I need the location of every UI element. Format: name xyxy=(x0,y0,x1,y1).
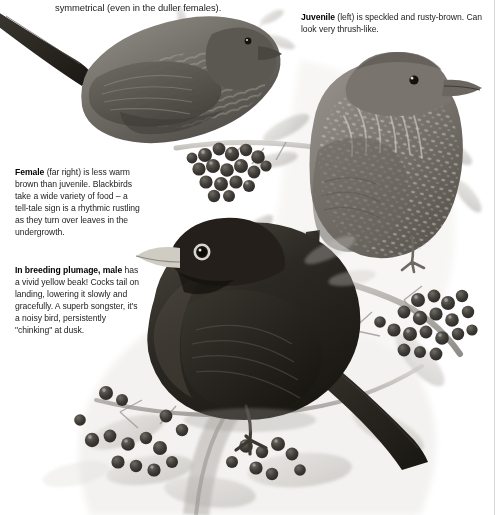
female-caption: Female (far right) is less warm brown th… xyxy=(15,166,140,239)
male-caption-body: has a vivid yellow beak! Cocks tail on l… xyxy=(15,265,139,335)
female-caption-lead: Female xyxy=(15,167,44,177)
field-guide-page: symmetrical (even in the duller females)… xyxy=(0,0,495,515)
male-caption: In breeding plumage, male has a vivid ye… xyxy=(15,264,143,337)
blackbird-illustration xyxy=(0,0,494,515)
juvenile-caption: Juvenile (left) is speckled and rusty-br… xyxy=(301,11,486,35)
male-caption-lead: In breeding plumage, male xyxy=(15,265,122,275)
female-caption-body: (far right) is less warm brown than juve… xyxy=(15,167,140,237)
juvenile-caption-lead: Juvenile xyxy=(301,12,335,22)
